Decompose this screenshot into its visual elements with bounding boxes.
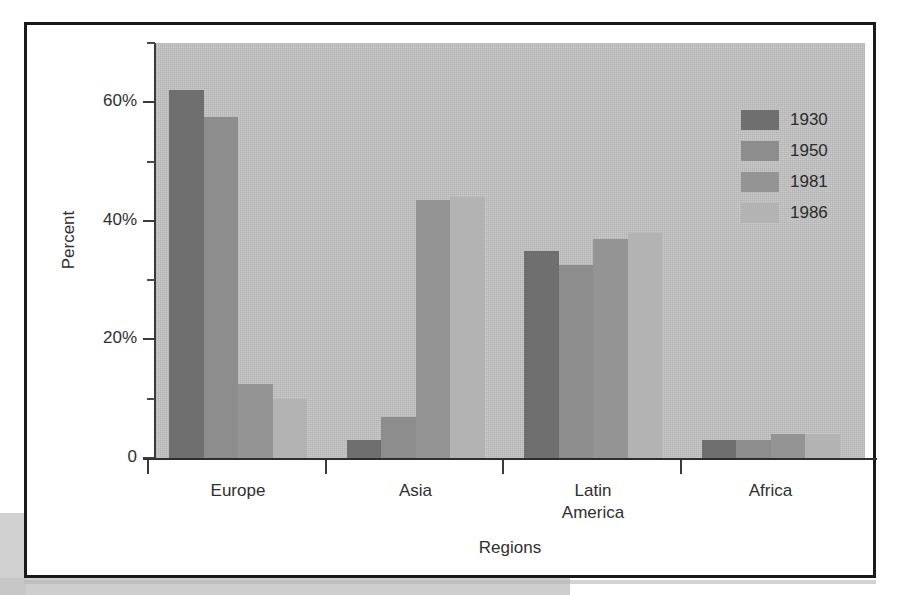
y-axis-tick-major	[143, 220, 155, 222]
y-axis-tick-label: 20%	[41, 328, 137, 348]
bar-latin-america-1981	[593, 239, 628, 458]
bar-asia-1981	[416, 200, 451, 458]
bar-group-asia	[347, 43, 485, 458]
bar-cell	[416, 43, 451, 458]
x-axis-label-line: Europe	[158, 480, 318, 502]
legend-swatch-1986	[741, 203, 779, 223]
y-axis-tick-label: 60%	[41, 91, 137, 111]
legend-item-1986: 1986	[741, 197, 861, 228]
bar-europe-1950	[204, 117, 239, 458]
bar-africa-1981	[771, 434, 806, 458]
legend-swatch-1981	[741, 172, 779, 192]
bar-africa-1986	[805, 434, 840, 458]
x-axis-tick	[325, 460, 327, 474]
y-axis-tick-label: 40%	[41, 210, 137, 230]
legend-item-1950: 1950	[741, 135, 861, 166]
y-axis-line	[154, 43, 156, 459]
x-axis-label-line: America	[513, 502, 673, 524]
legend-swatch-1930	[741, 110, 779, 130]
bar-cell	[238, 43, 273, 458]
bar-cell	[450, 43, 485, 458]
legend-label-1930: 1930	[790, 110, 828, 130]
bar-africa-1930	[702, 440, 737, 458]
bar-europe-1930	[169, 90, 204, 458]
legend-item-1930: 1930	[741, 104, 861, 135]
bar-group-europe	[169, 43, 307, 458]
legend-item-1981: 1981	[741, 166, 861, 197]
x-axis-label-line: Asia	[336, 480, 496, 502]
bar-cell	[381, 43, 416, 458]
scan-artifact-bottom-edge	[24, 580, 876, 584]
bar-latin-america-1950	[559, 265, 594, 458]
bar-chart: 020%40%60% EuropeAsiaLatinAmericaAfrica …	[27, 25, 879, 575]
x-axis-label-europe: Europe	[158, 480, 318, 502]
bar-cell	[593, 43, 628, 458]
legend-label-1981: 1981	[790, 172, 828, 192]
figure-frame: 020%40%60% EuropeAsiaLatinAmericaAfrica …	[24, 22, 876, 578]
bar-cell	[169, 43, 204, 458]
x-axis-label-africa: Africa	[691, 480, 851, 502]
y-axis-tick-minor	[147, 279, 155, 281]
legend-label-1950: 1950	[790, 141, 828, 161]
y-axis-title: Percent	[59, 160, 79, 320]
y-axis-tick-minor	[147, 398, 155, 400]
bar-cell	[628, 43, 663, 458]
bar-asia-1930	[347, 440, 382, 458]
y-axis-tick-label: 0	[41, 447, 137, 467]
x-axis-label-line: Latin	[513, 480, 673, 502]
y-axis-tick-major	[143, 457, 155, 459]
legend-swatch-1950	[741, 141, 779, 161]
x-axis-tick	[502, 460, 504, 474]
y-axis-tick-major	[143, 101, 155, 103]
bar-cell	[273, 43, 308, 458]
bar-latin-america-1986	[628, 233, 663, 458]
y-axis-tick-minor	[147, 42, 155, 44]
y-axis-tick-major	[143, 338, 155, 340]
bar-europe-1986	[273, 399, 308, 458]
bar-latin-america-1930	[524, 251, 559, 459]
bar-cell	[702, 43, 737, 458]
x-axis-label-latin-america: LatinAmerica	[513, 480, 673, 525]
bar-cell	[524, 43, 559, 458]
bar-cell	[204, 43, 239, 458]
x-axis-title: Regions	[155, 538, 865, 558]
bar-europe-1981	[238, 384, 273, 458]
x-axis-label-line: Africa	[691, 480, 851, 502]
y-axis-tick-minor	[147, 161, 155, 163]
bar-group-latin-america	[524, 43, 662, 458]
bar-africa-1950	[736, 440, 771, 458]
legend-label-1986: 1986	[790, 203, 828, 223]
bar-cell	[559, 43, 594, 458]
chart-legend: 1930195019811986	[741, 104, 861, 228]
x-axis-tick	[147, 460, 149, 474]
x-axis-label-asia: Asia	[336, 480, 496, 502]
bar-asia-1986	[450, 197, 485, 458]
x-axis-line	[143, 458, 877, 460]
bar-asia-1950	[381, 417, 416, 459]
x-axis-tick	[680, 460, 682, 474]
bar-cell	[347, 43, 382, 458]
